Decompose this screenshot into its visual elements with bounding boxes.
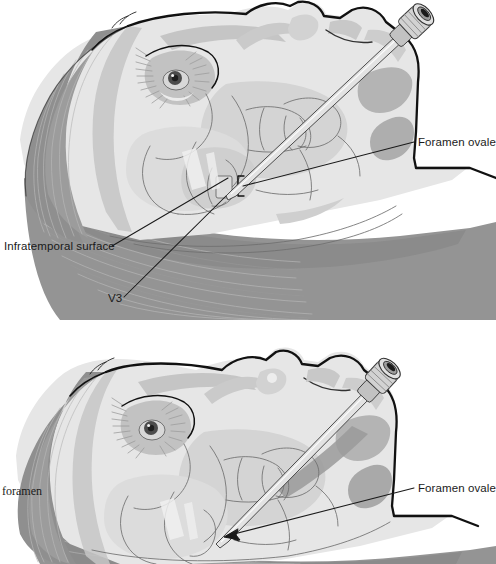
- label-infratemporal-surface: Infratemporal surface: [4, 240, 115, 252]
- label-v3: V3: [108, 292, 122, 304]
- label-foramen-ovale-lower: Foramen ovale: [418, 482, 496, 494]
- nostril-highlight: [267, 373, 277, 383]
- label-foramen-ovale-upper: Foramen ovale: [418, 136, 496, 148]
- eye-highlight: [171, 74, 174, 77]
- figure-root: Foramen ovale Infratemporal surface V3: [0, 0, 496, 564]
- lower-panel: Foramen ovale foramen: [0, 320, 496, 564]
- label-foramen-cropped: foramen: [2, 484, 42, 498]
- eye-highlight-lower: [147, 424, 150, 427]
- upper-panel: Foramen ovale Infratemporal surface V3: [0, 0, 496, 320]
